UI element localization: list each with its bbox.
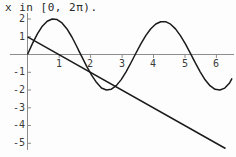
x-tick-label-3: 3 [119, 58, 125, 69]
x-tick-label-1: 1 [56, 58, 62, 69]
y-tick-label-1: 1 [8, 31, 25, 42]
y-tick-label-2: 2 [8, 13, 25, 24]
y-tick-label-minus3: -3 [4, 102, 25, 113]
x-tick-label-6: 6 [213, 58, 219, 69]
x-tick-label-2: 2 [87, 58, 93, 69]
y-tick-label-minus1: -1 [4, 66, 25, 77]
x-tick-label-5: 5 [182, 58, 188, 69]
plot-area [0, 0, 236, 157]
chart-figure: x in [0, 2π). 1 2 [0, 0, 236, 157]
y-tick-label-minus4: -4 [4, 119, 25, 130]
x-tick-label-4: 4 [150, 58, 156, 69]
series-linear-line [28, 37, 226, 149]
y-tick-label-minus2: -2 [4, 84, 25, 95]
y-tick-label-minus5: -5 [4, 137, 25, 148]
